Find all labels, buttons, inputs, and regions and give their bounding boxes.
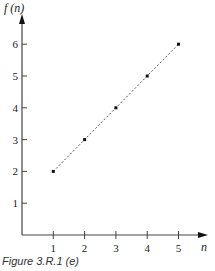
y-axis-arrow-icon [19, 14, 25, 24]
data-point [114, 106, 117, 109]
axes: 12345612345f (n)n [4, 1, 208, 254]
y-axis-label: f (n) [4, 1, 24, 15]
chart-canvas: 12345612345f (n)n [0, 0, 215, 271]
y-tick-label: 1 [13, 197, 19, 209]
y-tick-label: 4 [13, 102, 19, 114]
x-axis-arrow-icon [198, 232, 208, 238]
x-tick-label: 5 [176, 242, 182, 254]
data-point [146, 75, 149, 78]
y-tick-label: 6 [13, 38, 19, 50]
y-tick-label: 5 [13, 70, 19, 82]
x-tick-label: 2 [82, 242, 88, 254]
y-tick-label: 2 [13, 165, 19, 177]
x-axis-label: n [201, 240, 207, 254]
data-point [177, 43, 180, 46]
data-point [52, 170, 55, 173]
x-tick-label: 1 [51, 242, 57, 254]
x-tick-label: 3 [113, 242, 119, 254]
data-point [83, 138, 86, 141]
x-tick-label: 4 [144, 242, 150, 254]
y-tick-label: 3 [13, 134, 19, 146]
figure-caption: Figure 3.R.1 (e) [2, 255, 79, 267]
data-series [52, 43, 180, 173]
